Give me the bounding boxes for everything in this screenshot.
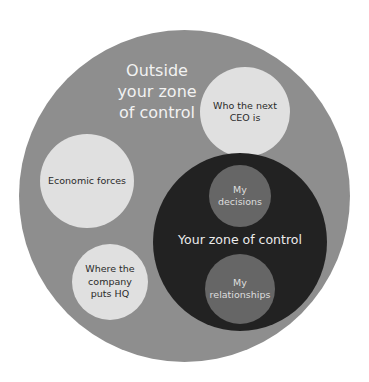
my-decisions-circle: My decisions [209,165,271,227]
my-relationships-label: My relationships [210,277,271,302]
economic-forces-label: Economic forces [48,175,126,188]
outside-zone-label: Outside your zone of control [98,60,216,123]
company-hq-circle: Where the company puts HQ [72,244,148,320]
my-decisions-label: My decisions [218,184,262,209]
next-ceo-circle: Who the next CEO is [200,67,290,157]
zone-of-control-diagram: Outside your zone of control Who the nex… [0,0,369,382]
next-ceo-label: Who the next CEO is [213,100,277,125]
my-relationships-circle: My relationships [205,254,275,324]
your-zone-label: Your zone of control [160,232,320,248]
company-hq-label: Where the company puts HQ [85,263,134,301]
economic-forces-circle: Economic forces [40,134,134,228]
